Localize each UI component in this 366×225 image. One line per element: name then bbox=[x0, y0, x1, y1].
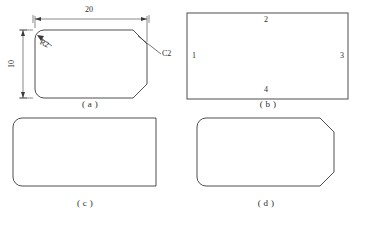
caption-a: ( a ) bbox=[50, 99, 130, 109]
panel-a-drawing bbox=[0, 0, 183, 100]
caption-b: ( b ) bbox=[228, 99, 308, 109]
annotation-label-chamfer: C2 bbox=[162, 50, 171, 58]
arrowhead-bottom-icon bbox=[21, 92, 25, 98]
arrowhead-right-icon bbox=[141, 17, 147, 21]
arrowhead-top-icon bbox=[21, 30, 25, 36]
technical-drawing-figure: 20 10 R2 C2 ( a ) 1 2 3 4 ( b ) ( c ) ( … bbox=[0, 0, 366, 225]
panel-a: 20 10 R2 C2 ( a ) bbox=[0, 0, 183, 100]
dimension-label-width: 20 bbox=[85, 6, 93, 14]
panel-b-drawing bbox=[180, 0, 366, 105]
dimension-label-height: 10 bbox=[8, 60, 16, 68]
shape-outline-a bbox=[35, 30, 147, 98]
shape-outline-c bbox=[13, 118, 156, 186]
shape-outline-d bbox=[197, 118, 334, 186]
edge-label-top: 2 bbox=[264, 16, 268, 24]
edge-label-bottom: 4 bbox=[264, 86, 268, 94]
panel-d-drawing bbox=[180, 110, 366, 200]
edge-label-left: 1 bbox=[192, 52, 196, 60]
panel-c: ( c ) bbox=[0, 110, 183, 200]
chamfer-leader-line bbox=[138, 36, 161, 54]
panel-c-drawing bbox=[0, 110, 183, 200]
caption-d: ( d ) bbox=[226, 198, 306, 208]
edge-label-right: 3 bbox=[340, 52, 344, 60]
arrowhead-left-icon bbox=[35, 17, 41, 21]
panel-b: 1 2 3 4 ( b ) bbox=[180, 0, 366, 105]
caption-c: ( c ) bbox=[45, 198, 125, 208]
panel-d: ( d ) bbox=[180, 110, 366, 200]
